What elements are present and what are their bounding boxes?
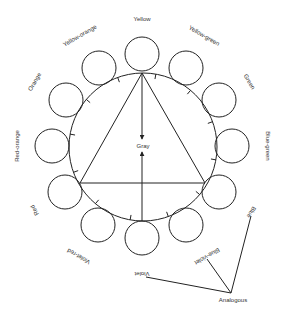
- color-wheel-diagram: YellowYellow-greenGreenBlue-greenBlueBlu…: [0, 0, 286, 314]
- tick-mark: [86, 99, 90, 102]
- swatch-circle-violet-red: [81, 208, 115, 242]
- swatch-circle-blue-violet: [169, 208, 203, 242]
- color-label-red: Red: [29, 204, 40, 217]
- analogous-line: [231, 216, 251, 293]
- tick-mark: [95, 200, 98, 204]
- analogous-line: [146, 277, 231, 293]
- analogous-connector: [146, 216, 251, 293]
- swatch-circle-yellow: [125, 37, 159, 71]
- color-label-violet: Violet: [134, 271, 149, 277]
- color-label-blue: Blue: [245, 206, 257, 220]
- swatch-circle-red: [48, 175, 82, 209]
- color-label-violet-red: Violet-red: [66, 247, 91, 265]
- color-label-orange: Orange: [27, 71, 43, 92]
- analogous-line: [207, 259, 231, 293]
- tick-mark: [73, 171, 78, 173]
- swatch-circle-blue-green: [215, 129, 249, 163]
- color-label-yellow-green: Yellow-green: [188, 24, 221, 46]
- swatch-circle-blue: [202, 175, 236, 209]
- swatch-circle-green: [202, 83, 236, 117]
- swatch-circle-red-orange: [35, 129, 69, 163]
- tick-mark: [196, 191, 200, 194]
- tick-mark: [130, 215, 131, 220]
- tick-mark: [155, 74, 156, 79]
- tick-mark: [118, 77, 120, 82]
- analogous-label: Analogous: [219, 297, 247, 303]
- tick-mark: [70, 134, 75, 135]
- tick-mark: [187, 90, 190, 94]
- swatch-circle-yellow-green: [169, 51, 203, 85]
- color-label-green: Green: [243, 73, 257, 90]
- tick-mark: [167, 212, 169, 217]
- swatch-circle-violet: [125, 221, 159, 255]
- tick-mark: [211, 159, 216, 160]
- color-label-yellow-orange: Yellow-orange: [62, 23, 98, 47]
- gray-center-label: Gray: [136, 143, 149, 149]
- color-label-blue-green: Blue-green: [265, 131, 271, 160]
- color-label-blue-violet: Blue-violet: [193, 247, 221, 266]
- color-label-red-orange: Red-orange: [14, 129, 20, 161]
- swatch-circle-orange: [49, 83, 83, 117]
- swatch-circle-yellow-orange: [82, 51, 116, 85]
- color-label-yellow: Yellow: [133, 16, 151, 22]
- tick-mark: [208, 122, 213, 124]
